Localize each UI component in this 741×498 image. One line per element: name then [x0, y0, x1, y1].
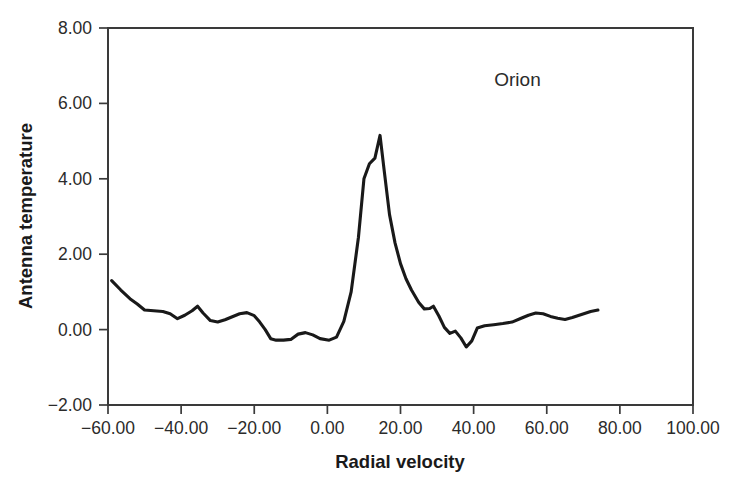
y-tick-label: 2.00 — [58, 244, 92, 264]
x-tick-label: 100.00 — [666, 418, 720, 438]
y-axis-title: Antenna temperature — [15, 123, 36, 309]
x-tick-label: 0.00 — [310, 418, 344, 438]
figure-canvas: −60.00−40.00−20.000.0020.0040.0060.0080.… — [0, 0, 741, 498]
line-chart: −60.00−40.00−20.000.0020.0040.0060.0080.… — [0, 0, 741, 498]
y-tick-label: −2.00 — [48, 395, 93, 415]
annotation-orion: Orion — [494, 69, 540, 90]
y-tick-label: 6.00 — [58, 93, 92, 113]
y-tick-label: 8.00 — [58, 18, 92, 38]
x-tick-label: −60.00 — [81, 418, 135, 438]
x-tick-label: −40.00 — [154, 418, 208, 438]
data-line-orion-spectrum — [112, 135, 598, 347]
x-tick-label: 20.00 — [379, 418, 423, 438]
x-axis-title: Radial velocity — [335, 451, 465, 472]
x-axis-ticks — [108, 405, 693, 414]
x-tick-label: 80.00 — [598, 418, 642, 438]
y-tick-label: 0.00 — [58, 320, 92, 340]
x-tick-label: 40.00 — [452, 418, 496, 438]
data-series-group — [112, 135, 598, 347]
x-tick-label: 60.00 — [525, 418, 569, 438]
y-axis-tick-labels: −2.000.002.004.006.008.00 — [48, 18, 93, 415]
y-tick-label: 4.00 — [58, 169, 92, 189]
y-axis-ticks — [99, 28, 108, 405]
x-tick-label: −20.00 — [227, 418, 281, 438]
plot-frame — [108, 28, 693, 405]
x-axis-tick-labels: −60.00−40.00−20.000.0020.0040.0060.0080.… — [81, 418, 720, 438]
